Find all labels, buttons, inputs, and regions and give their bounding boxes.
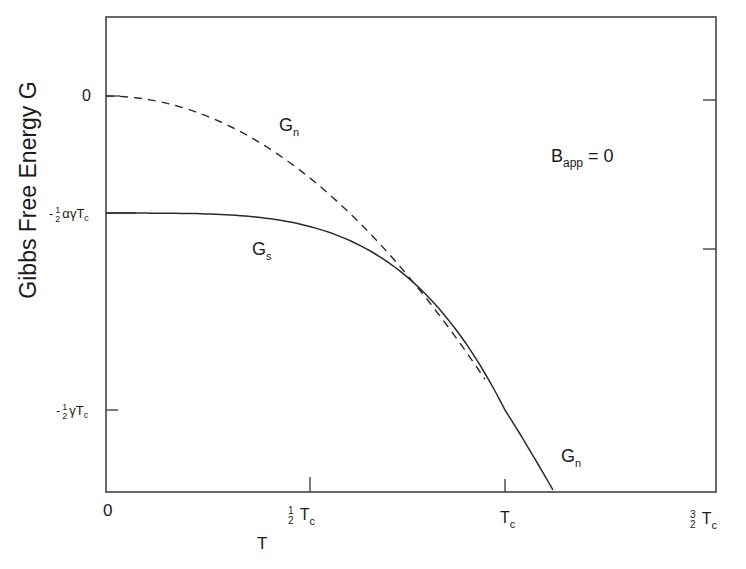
label-sub: n (293, 126, 299, 138)
label-sub: n (575, 457, 581, 469)
tick-sign: - (49, 206, 53, 221)
tick-sign: - (56, 403, 60, 418)
tick-sub: c (712, 519, 718, 531)
y-tick-label-gamma: -12γTc (56, 403, 88, 421)
x-tick-label-3half-tc: 32 Tc (688, 510, 717, 530)
x-tick-label-tc: Tc (500, 510, 515, 526)
fraction-three-halves: 32 (690, 510, 696, 530)
fraction-half: 12 (62, 403, 67, 421)
fraction-half: 12 (55, 206, 60, 224)
gn-solid-curve (505, 410, 553, 490)
y-axis-label: Gibbs Free Energy G (15, 81, 42, 298)
tick-sub: c (84, 410, 89, 420)
tick-sub: c (510, 518, 516, 530)
x-axis-label: T (257, 535, 267, 552)
frac-den: 2 (288, 516, 294, 526)
gn-upper-label: Gn (279, 116, 299, 134)
tick-main: γT (69, 403, 83, 418)
gn-lower-label: Gn (561, 447, 581, 465)
label-main: G (279, 115, 293, 135)
tick-main: T (500, 509, 510, 526)
y-axis-ticks-right (703, 100, 716, 249)
frac-den: 2 (55, 215, 60, 224)
frac-den: 2 (62, 412, 67, 421)
label-main: G (561, 446, 575, 466)
x-tick-label-half-tc: 12 Tc (286, 506, 315, 526)
x-axis-ticks (310, 477, 505, 492)
tick-sub: c (310, 515, 316, 527)
plot-frame (106, 17, 716, 492)
label-sub: s (266, 250, 272, 262)
chart-canvas (0, 0, 746, 569)
x-tick-label-0: 0 (103, 502, 112, 519)
gs-label: Gs (252, 240, 272, 258)
tick-main: T (702, 510, 712, 527)
y-tick-label-0: 0 (82, 88, 91, 104)
label-rest: = 0 (583, 146, 614, 166)
y-tick-label-alpha: -12αγTc (49, 206, 89, 224)
label-sub: app (563, 156, 583, 170)
tick-sub: c (84, 213, 89, 223)
bapp-annotation: Bapp = 0 (551, 147, 614, 165)
fraction-half: 12 (288, 506, 294, 526)
label-main: G (252, 239, 266, 259)
label-main: B (551, 146, 563, 166)
tick-main: T (300, 506, 310, 523)
gs-solid-curve (106, 213, 505, 410)
frac-den: 2 (690, 520, 696, 530)
y-axis-ticks-left (106, 96, 136, 410)
gn-dashed-curve (106, 96, 485, 379)
tick-main: αγT (62, 206, 84, 221)
